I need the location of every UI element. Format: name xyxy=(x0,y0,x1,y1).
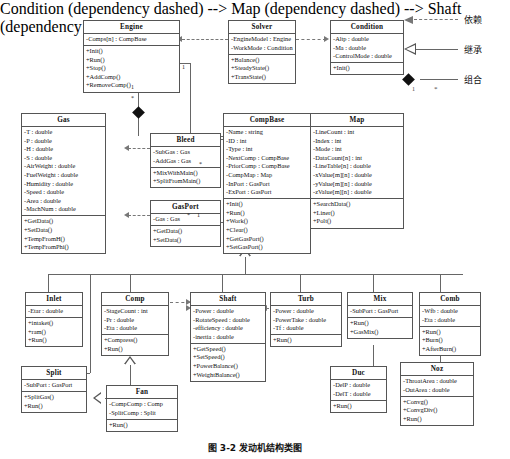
class-box-mix[interactable]: Mix -SubPort : GasPort +Run() +GasMix() xyxy=(347,292,413,339)
class-box-gasport[interactable]: GasPort -Gas : Gas +GetData() +SetData() xyxy=(150,200,221,247)
inheritance-drop-shaft xyxy=(222,274,223,292)
dependency-arrow-icon xyxy=(404,16,413,24)
class-attribute: -LineTable[n] : double xyxy=(311,162,403,171)
class-box-condition[interactable]: Condition -Altp : double -Ma : double -C… xyxy=(330,20,404,75)
legend-multiplicity-right: * xyxy=(434,85,438,93)
class-methods-comp: +Compress() +Run() xyxy=(102,335,168,355)
class-box-map[interactable]: Map -LineCount : int -Index : int -Mode … xyxy=(310,113,404,229)
class-box-compbase[interactable]: CompBase -Name : string -ID : int -Type … xyxy=(223,113,311,254)
legend: 依赖 继承 组合 1 * xyxy=(398,16,506,106)
class-method: +ConvgDiv() xyxy=(401,406,473,415)
class-attribute: -H : double xyxy=(22,145,105,154)
class-attribute: -StageCount : int xyxy=(102,307,168,316)
class-method: +TransState() xyxy=(229,73,295,82)
class-method: +Init() xyxy=(331,64,403,73)
class-method: +MixWithMain() xyxy=(151,169,220,178)
class-methods-gas: +GetData() +SetData() +TempFromH() +Temp… xyxy=(22,216,105,253)
class-box-duc[interactable]: Duc -DelP : double -DelT : double +Run() xyxy=(330,366,387,413)
class-method: +SplitGas() xyxy=(22,393,86,402)
class-method: +Run() xyxy=(224,209,310,218)
class-method: +GetGasPort() xyxy=(224,235,310,244)
class-method: +SetData() xyxy=(22,226,105,235)
inheritance-drop-mix xyxy=(373,274,374,292)
multiplicity-compbase-gasport-1: 1 xyxy=(197,212,200,218)
class-attribute: -Tf : double xyxy=(271,324,341,333)
class-attributes-comb: -Wfb : double -Eta : double xyxy=(420,306,480,327)
class-attribute: -efficiency : double xyxy=(191,324,265,333)
class-methods-turb: +Run() xyxy=(271,335,341,346)
class-methods-mix: +Run() +GasMix() xyxy=(348,318,412,338)
class-title-solver: Solver xyxy=(229,21,295,34)
class-method: +Run() xyxy=(107,421,177,430)
inheritance-bus-stub xyxy=(245,256,246,274)
class-attribute: -Index : int xyxy=(311,137,403,146)
class-method: +Clear() xyxy=(224,226,310,235)
class-attribute: -Pr : double xyxy=(102,316,168,325)
class-method: +Run() xyxy=(22,402,86,411)
class-title-duc: Duc xyxy=(331,367,386,380)
class-attributes-gas: -T : double -P : double -H : double -S :… xyxy=(22,127,105,216)
class-attribute: -AirWeight : double xyxy=(22,162,105,171)
inheritance-bus-horizontal xyxy=(48,274,463,275)
class-title-gas: Gas xyxy=(22,114,105,127)
dependency-gasport-gas xyxy=(128,215,150,216)
class-method: +AfterBurn() xyxy=(420,345,480,354)
class-attribute: -CompMap : Map xyxy=(224,171,310,180)
class-method: +TempFromPhi() xyxy=(22,243,105,252)
class-method: +PowerBalance() xyxy=(191,362,265,371)
class-title-fan: Fan xyxy=(107,386,177,399)
class-attributes-split: -SubPort : GasPort xyxy=(22,380,86,392)
class-method: +Liner() xyxy=(311,209,403,218)
class-box-bleed[interactable]: Bleed -SubGas : Gas -AddGas : Gas +MixWi… xyxy=(150,133,221,188)
class-attribute: -Type : int xyxy=(224,145,310,154)
class-box-split[interactable]: Split -SubPort : GasPort +SplitGas() +Ru… xyxy=(21,366,87,413)
class-attribute: -Speed : double xyxy=(22,188,105,197)
class-method: +SteadyState() xyxy=(229,64,295,73)
class-title-mix: Mix xyxy=(348,293,412,306)
class-attribute: -LineCount : int xyxy=(311,128,403,137)
class-box-turb[interactable]: Turb -Power : double -PowerTake : double… xyxy=(270,292,342,347)
class-box-inlet[interactable]: Inlet -Etar : double +intaket() +ram() +… xyxy=(25,292,83,347)
composition-engine-compbase-vline xyxy=(190,64,191,139)
class-box-comb[interactable]: Comb -Wfb : double -Eta : double +Run() … xyxy=(419,292,481,356)
class-attribute: -FuelWeight : double xyxy=(22,171,105,180)
inheritance-drop-comb xyxy=(440,274,441,292)
class-attributes-comp: -StageCount : int -Pr : double -Eta : do… xyxy=(102,306,168,335)
class-attribute: -ExPort : GasPort xyxy=(224,188,310,197)
class-methods-noz: +Convg() +ConvgDiv() +Run() xyxy=(401,397,473,425)
class-attributes-noz: -ThroatArea : double -OutArea : double xyxy=(401,376,473,397)
dependency-arrow-gas-gasport xyxy=(124,212,129,218)
class-attribute: -Power : double xyxy=(271,307,341,316)
class-attribute: -InPort : GasPort xyxy=(224,180,310,189)
dependency-arrow-gas-bleed xyxy=(124,145,129,151)
class-attribute: -SubPort : GasPort xyxy=(348,307,412,316)
class-methods-solver: +Balance() +SteadyState() +TransState() xyxy=(229,55,295,83)
class-title-bleed: Bleed xyxy=(151,134,220,147)
class-attribute: -MachNum : double xyxy=(22,205,105,214)
class-title-noz: Noz xyxy=(401,363,473,376)
class-attribute: -WorkMode : Condition xyxy=(229,44,295,53)
legend-label-composition: 组合 xyxy=(464,73,482,86)
class-attribute: -DataCount[n] : int xyxy=(311,154,403,163)
multiplicity-engine-gas-star: * xyxy=(131,95,134,101)
inheritance-drop-turb xyxy=(300,274,301,292)
legend-multiplicity-left: 1 xyxy=(412,86,415,92)
class-box-fan[interactable]: Fan -CompComp : Comp -SplitComp : Split … xyxy=(106,385,178,432)
class-box-noz[interactable]: Noz -ThroatArea : double -OutArea : doub… xyxy=(400,362,474,426)
class-attribute: -Etar : double xyxy=(26,307,82,316)
class-attributes-shaft: -Power : double -RotateSpeed : double -e… xyxy=(191,306,265,344)
class-box-engine[interactable]: Engine -Comps[n] : CompBase +Init() +Run… xyxy=(83,20,180,93)
class-attribute: -OutArea : double xyxy=(401,386,473,395)
class-box-solver[interactable]: Solver -EngineModel : Engine -WorkMode :… xyxy=(228,20,296,84)
class-method: +Run() xyxy=(102,345,168,354)
class-attribute: -SubGas : Gas xyxy=(151,148,220,157)
class-method: +Balance() xyxy=(229,56,295,65)
inheritance-drop-comp xyxy=(130,274,131,292)
class-method: +Polt() xyxy=(311,217,403,226)
class-box-gas[interactable]: Gas -T : double -P : double -H : double … xyxy=(21,113,106,254)
class-box-shaft[interactable]: Shaft -Power : double -RotateSpeed : dou… xyxy=(190,292,266,382)
class-box-comp[interactable]: Comp -StageCount : int -Pr : double -Eta… xyxy=(101,292,169,356)
class-attribute: -AddGas : Gas xyxy=(151,157,220,166)
class-attribute: -PriorComp : CompBase xyxy=(224,162,310,171)
multiplicity-engine-gas-1: 1 xyxy=(131,84,134,90)
